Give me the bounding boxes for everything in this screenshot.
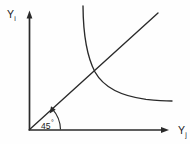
angle-value: 45 xyxy=(41,121,50,131)
y-axis-label-subscript: i xyxy=(14,15,16,22)
y-axis xyxy=(27,11,33,131)
x-axis-label: Yj xyxy=(178,125,187,138)
diagram-svg xyxy=(0,0,190,144)
arrow-up-icon xyxy=(27,11,33,19)
figure-canvas: Yi Yj 45° xyxy=(0,0,190,144)
diagonal-45-degree-line xyxy=(29,13,158,130)
degree-symbol: ° xyxy=(51,119,54,126)
angle-annotation-label: 45° xyxy=(41,119,54,130)
arrow-right-icon xyxy=(161,127,169,133)
hyperbola-curve xyxy=(83,6,172,101)
y-axis-label: Yi xyxy=(7,9,16,22)
x-axis-label-subscript: j xyxy=(185,131,187,138)
